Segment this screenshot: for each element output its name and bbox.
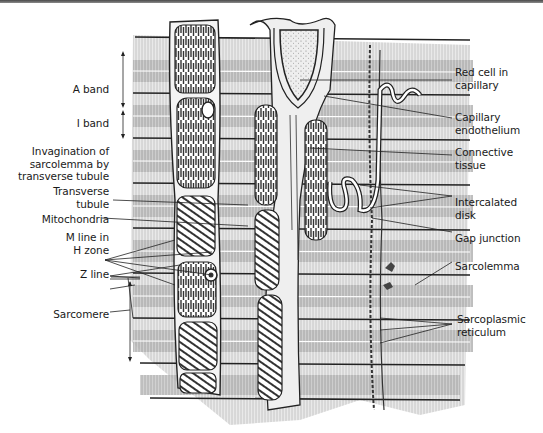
label-capillary-endothelium: Capillary endothelium [455, 111, 520, 136]
label-sarcomere-text: Sarcomere [53, 308, 109, 320]
label-sarcoplasmic-reticulum-line-1: Sarcoplasmic [457, 313, 526, 326]
label-sarcoplasmic-reticulum-line-2: reticulum [457, 326, 526, 339]
label-invagination: Invagination of sarcolemma by transverse… [18, 145, 109, 183]
label-m-line-line-2: H zone [66, 244, 109, 257]
label-i-band: I band [77, 117, 109, 130]
label-gap-junction: Gap junction [455, 232, 521, 245]
label-connective-tissue: Connective tissue [455, 146, 513, 171]
label-m-line-line-1: M line in [66, 231, 109, 244]
label-sarcoplasmic-reticulum: Sarcoplasmic reticulum [457, 313, 526, 338]
label-intercalated-disk: Intercalated disk [455, 196, 517, 221]
label-connective-tissue-line-2: tissue [455, 159, 513, 172]
label-z-line-text: Z line [80, 268, 109, 280]
label-a-band-text: A band [73, 83, 109, 95]
label-a-band: A band [73, 83, 109, 96]
label-sarcolemma: Sarcolemma [455, 260, 520, 273]
label-sarcomere: Sarcomere [53, 308, 109, 321]
label-transverse-tubule-line-2: tubule [53, 198, 109, 211]
label-z-line: Z line [80, 268, 109, 281]
label-red-cell-line-2: capillary [455, 79, 508, 92]
label-intercalated-disk-line-2: disk [455, 209, 517, 222]
left-mitochondria-column [170, 20, 221, 395]
label-i-band-text: I band [77, 117, 109, 129]
label-invagination-line-2: sarcolemma by [18, 158, 109, 171]
label-invagination-line-1: Invagination of [18, 145, 109, 158]
label-red-cell: Red cell in capillary [455, 66, 508, 91]
label-mitochondria: Mitochondria [42, 213, 109, 226]
label-m-line: M line in H zone [66, 231, 109, 256]
label-invagination-line-3: transverse tubule [18, 170, 109, 183]
label-transverse-tubule: Transverse tubule [53, 185, 109, 210]
label-gap-junction-text: Gap junction [455, 232, 521, 244]
label-capillary-endothelium-line-2: endothelium [455, 124, 520, 137]
label-sarcolemma-text: Sarcolemma [455, 260, 520, 272]
label-intercalated-disk-line-1: Intercalated [455, 196, 517, 209]
label-transverse-tubule-line-1: Transverse [53, 185, 109, 198]
label-connective-tissue-line-1: Connective [455, 146, 513, 159]
label-capillary-endothelium-line-1: Capillary [455, 111, 520, 124]
label-mitochondria-text: Mitochondria [42, 213, 109, 225]
label-red-cell-line-1: Red cell in [455, 66, 508, 79]
